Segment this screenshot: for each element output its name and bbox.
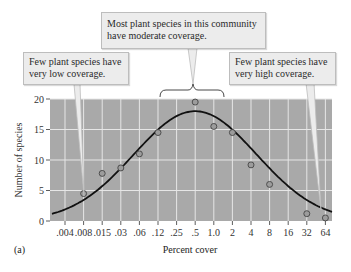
callout-moderate-coverage: Most plant species in this community hav… bbox=[101, 12, 266, 49]
data-point bbox=[229, 130, 235, 136]
callout-low-coverage: Few plant species have very low coverage… bbox=[23, 52, 129, 85]
y-tick-label: 5 bbox=[39, 185, 44, 196]
x-tick-label: 1.0 bbox=[208, 227, 221, 238]
moderate-bracket bbox=[160, 84, 224, 97]
data-point bbox=[192, 99, 198, 105]
data-point bbox=[304, 211, 310, 217]
callout-low-line2: very low coverage. bbox=[29, 68, 123, 80]
x-tick-label: 32 bbox=[302, 227, 312, 238]
x-tick-label: 2 bbox=[230, 227, 235, 238]
data-point bbox=[155, 130, 161, 136]
x-tick-label: .12 bbox=[152, 227, 165, 238]
callout-mid-line1: Most plant species in this community bbox=[107, 18, 260, 30]
x-axis-label: Percent cover bbox=[150, 244, 230, 255]
callout-high-line2: very high coverage. bbox=[235, 68, 330, 80]
callout-high-line1: Few plant species have bbox=[235, 56, 330, 68]
callout-mid-pointer bbox=[188, 48, 197, 84]
x-tick-label: .06 bbox=[133, 227, 146, 238]
x-tick-label: .015 bbox=[93, 227, 111, 238]
x-tick-label: .5 bbox=[191, 227, 199, 238]
data-point bbox=[322, 215, 328, 221]
data-point bbox=[267, 181, 273, 187]
x-tick-label: .008 bbox=[75, 227, 93, 238]
data-point bbox=[248, 162, 254, 168]
callout-mid-line2: have moderate coverage. bbox=[107, 30, 260, 42]
plot-area: 05101520.004.008.015.03.06.12.25.51.0248… bbox=[13, 84, 332, 238]
x-tick-label: .25 bbox=[170, 227, 183, 238]
data-point bbox=[136, 151, 142, 157]
x-tick-label: 16 bbox=[283, 227, 293, 238]
callout-high-coverage: Few plant species have very high coverag… bbox=[229, 52, 336, 85]
y-tick-label: 0 bbox=[39, 216, 44, 227]
figure-label: (a) bbox=[14, 244, 25, 255]
x-tick-label: 8 bbox=[267, 227, 272, 238]
x-tick-label: 64 bbox=[320, 227, 330, 238]
y-axis-label: Number of species bbox=[13, 122, 24, 197]
data-point bbox=[211, 123, 217, 129]
callout-low-line1: Few plant species have bbox=[29, 56, 123, 68]
x-tick-label: .03 bbox=[115, 227, 128, 238]
x-tick-label: .004 bbox=[56, 227, 74, 238]
y-tick-label: 20 bbox=[34, 94, 44, 105]
y-tick-label: 10 bbox=[34, 155, 44, 166]
x-tick-label: 4 bbox=[249, 227, 254, 238]
data-point bbox=[118, 165, 124, 171]
y-tick-label: 15 bbox=[34, 124, 44, 135]
data-point bbox=[99, 170, 105, 176]
